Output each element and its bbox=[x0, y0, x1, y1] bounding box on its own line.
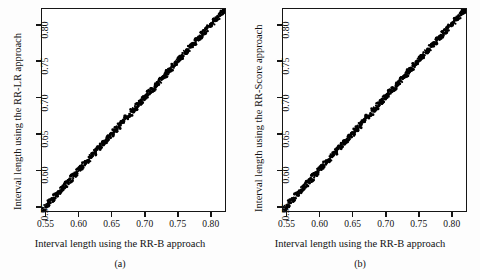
plot-area-a bbox=[41, 8, 226, 212]
y-axis-title-a: Interval length using the RR-LR approach bbox=[12, 33, 23, 210]
panel-a: 0.550.600.650.700.750.80 0.550.600.650.7… bbox=[0, 0, 240, 280]
y-axis-tick-label: 0.75 bbox=[286, 66, 296, 83]
x-axis-tick-mark bbox=[78, 212, 80, 217]
panel-b: 0.550.600.650.700.750.80 0.550.600.650.7… bbox=[240, 0, 480, 280]
y-axis-title-b: Interval length using the RR-Score appro… bbox=[253, 25, 264, 213]
x-axis-tick-label: 0.70 bbox=[136, 219, 153, 229]
x-axis-tick-mark bbox=[352, 212, 354, 217]
figure-container: 0.550.600.650.700.750.80 0.550.600.650.7… bbox=[0, 0, 480, 280]
y-axis-tick-label: 0.60 bbox=[286, 175, 296, 192]
x-axis-title-b: Interval length using the RR-B approach bbox=[240, 238, 480, 249]
x-axis-title-a: Interval length using the RR-B approach bbox=[0, 238, 240, 249]
y-axis-tick-label: 0.80 bbox=[286, 30, 296, 47]
scatter-plot-b bbox=[283, 9, 466, 211]
x-axis-tick-mark bbox=[451, 212, 453, 217]
y-axis-tick-label: 0.75 bbox=[45, 66, 55, 83]
y-axis-tick-label: 0.65 bbox=[286, 139, 296, 156]
x-axis-tick-mark bbox=[418, 212, 420, 217]
x-axis-tick-label: 0.75 bbox=[169, 219, 186, 229]
x-axis-tick-label: 0.60 bbox=[311, 219, 328, 229]
y-axis-tick-label: 0.70 bbox=[286, 103, 296, 120]
x-axis-tick-label: 0.80 bbox=[443, 219, 460, 229]
x-axis-tick-label: 0.55 bbox=[37, 219, 54, 229]
x-axis-tick-mark bbox=[319, 212, 321, 217]
plot-area-b bbox=[282, 8, 467, 212]
y-axis-tick-label: 0.65 bbox=[45, 139, 55, 156]
scatter-plot-a bbox=[42, 9, 225, 211]
x-axis-tick-label: 0.75 bbox=[410, 219, 427, 229]
y-axis-tick-label: 0.70 bbox=[45, 103, 55, 120]
x-axis-tick-mark bbox=[177, 212, 179, 217]
x-axis-tick-mark bbox=[385, 212, 387, 217]
x-axis-tick-label: 0.65 bbox=[103, 219, 120, 229]
panel-caption-a: (a) bbox=[0, 258, 240, 269]
x-axis-tick-mark bbox=[286, 212, 288, 217]
x-axis-tick-mark bbox=[45, 212, 47, 217]
x-axis-tick-label: 0.70 bbox=[377, 219, 394, 229]
y-axis-tick-label: 0.80 bbox=[45, 30, 55, 47]
x-axis-tick-label: 0.60 bbox=[70, 219, 87, 229]
x-axis-tick-mark bbox=[144, 212, 146, 217]
y-axis-tick-label: 0.60 bbox=[45, 175, 55, 192]
x-axis-tick-label: 0.55 bbox=[278, 219, 295, 229]
panel-caption-b: (b) bbox=[240, 258, 480, 269]
x-axis-tick-mark bbox=[111, 212, 113, 217]
x-axis-tick-label: 0.65 bbox=[344, 219, 361, 229]
x-axis-tick-label: 0.80 bbox=[202, 219, 219, 229]
x-axis-tick-mark bbox=[210, 212, 212, 217]
